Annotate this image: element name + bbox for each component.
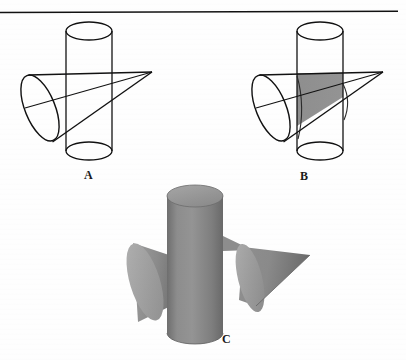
cone-lower-slant [53,72,153,142]
cone-base-ellipse [244,70,298,146]
panel-b-wireframe-shaded [244,22,400,170]
cone-axis-chord [25,72,152,108]
cylinder-bottom-ellipse [66,142,112,160]
cylinder-top-face [167,185,223,207]
panel-c-solid [119,185,310,344]
cone-upper-slant [29,72,153,75]
figure-root: A B C [0,0,406,360]
panel-label-a: A [84,169,93,181]
panel-c-right-cone-piece [230,241,310,315]
top-horizontal-rule [0,11,398,12]
cylinder-top-ellipse [66,22,112,40]
cylinder-body [167,196,223,344]
panel-a-cone [13,70,152,146]
panel-label-b: B [300,170,308,182]
cylinder-bottom-ellipse [297,142,343,160]
cone-base-ellipse [13,70,67,146]
cylinder-top-ellipse [297,22,343,40]
geometry-figure [0,0,406,360]
panel-c-cylinder [167,185,223,344]
panel-a-wireframe [13,22,152,160]
panel-a-cylinder [66,22,112,160]
panel-label-c: C [222,333,231,345]
